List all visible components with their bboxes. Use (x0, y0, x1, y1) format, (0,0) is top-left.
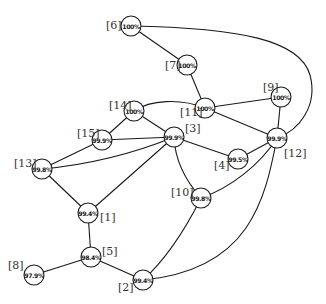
node-value: 99.9% (164, 134, 184, 141)
node-label: [12] (284, 147, 307, 160)
node-8: 97.9%[8] (8, 259, 44, 286)
node-label: [11] (180, 106, 203, 119)
node-label: [14] (109, 99, 132, 112)
node-15: 99.9%[15] (77, 127, 112, 151)
edge-15-3 (102, 137, 174, 140)
node-label: [9] (263, 81, 279, 94)
edge-11-9 (205, 97, 281, 108)
network-diagram: 99.4%[1]99.4%[2]99.9%[3]99.5%[4]98.4%[5]… (0, 0, 326, 304)
node-value: 100% (122, 23, 140, 30)
node-9: 100%[9] (263, 81, 291, 108)
node-1: 99.4%[1] (78, 203, 116, 224)
edge-6-12 (131, 26, 312, 138)
node-12: 99.9%[12] (267, 128, 307, 160)
node-7: 100%[7] (165, 55, 197, 75)
node-5: 98.4%[5] (81, 245, 118, 268)
node-value: 99.9% (267, 135, 287, 142)
node-value: 97.9% (24, 272, 44, 279)
node-label: [4] (214, 159, 230, 172)
node-value: 99.4% (78, 210, 98, 217)
node-6: 100%[6] (106, 16, 141, 36)
node-3: 99.9%[3] (164, 122, 201, 148)
node-value: 98.4% (81, 254, 101, 261)
node-label: [5] (102, 245, 118, 258)
node-value: 100% (178, 62, 196, 69)
edge-10-2 (143, 198, 201, 280)
node-10: 99.8%[10] (171, 186, 211, 209)
node-value: 99.8% (191, 195, 211, 202)
nodes-layer: 99.4%[1]99.4%[2]99.9%[3]99.5%[4]98.4%[5]… (8, 16, 307, 294)
node-14: 100%[14] (109, 99, 144, 122)
edge-11-12 (205, 108, 277, 138)
node-label: [13] (14, 157, 37, 170)
node-label: [3] (185, 122, 201, 135)
node-label: [15] (77, 127, 100, 140)
node-label: [10] (171, 186, 194, 199)
node-label: [6] (106, 19, 122, 32)
node-value: 100% (272, 94, 290, 101)
node-13: 99.8%[13] (14, 157, 52, 180)
node-2: 99.4%[2] (118, 270, 153, 294)
node-value: 99.5% (228, 156, 248, 163)
node-label: [7] (165, 59, 181, 72)
node-label: [8] (8, 259, 24, 272)
node-11: 100%[11] (180, 98, 215, 119)
node-label: [2] (118, 281, 134, 294)
node-label: [1] (100, 211, 116, 224)
node-value: 99.4% (133, 277, 153, 284)
